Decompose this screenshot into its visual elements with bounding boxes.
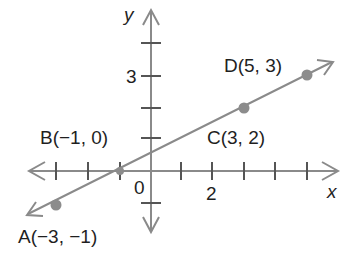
x-axis-label: x	[327, 182, 337, 201]
tick-label-origin: 0	[134, 178, 145, 197]
point-label-a: A(−3, −1)	[18, 227, 97, 246]
point-a	[51, 200, 62, 211]
tick-label-x-2: 2	[206, 184, 217, 203]
point-d	[302, 70, 313, 81]
x-axis	[29, 162, 338, 180]
point-label-c: C(3, 2)	[207, 128, 265, 147]
tick-label-y-3: 3	[126, 67, 137, 86]
y-axis	[141, 10, 161, 232]
y-axis-label: y	[124, 5, 134, 24]
point-c	[239, 103, 250, 114]
point-label-d: D(5, 3)	[224, 56, 282, 75]
point-label-b: B(−1, 0)	[40, 128, 108, 147]
point-b	[116, 167, 124, 175]
